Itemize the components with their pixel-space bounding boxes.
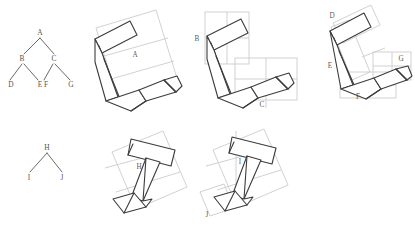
tree-edge-h-i <box>30 153 47 172</box>
panel-a: A <box>95 10 182 111</box>
tree-edge-b-e <box>24 64 38 80</box>
panel-bc-label-b: B <box>195 35 200 43</box>
figure-canvas: A B C D E F G H I J <box>0 0 415 228</box>
panel-defg: D E F G <box>328 5 412 101</box>
tree-node-f: F <box>44 80 48 89</box>
tree-node-e: E <box>38 80 43 89</box>
panel-h-label-h: H <box>136 163 141 171</box>
panel-bc-shape <box>207 19 294 108</box>
panel-defg-label-f: F <box>356 93 360 101</box>
figure-svg: A B C D E F G H I J <box>0 0 415 228</box>
tree-edge-c-g <box>55 64 70 80</box>
panel-h: H <box>105 131 187 213</box>
tree-hij <box>30 153 62 172</box>
tree-node-a: A <box>37 28 43 37</box>
panel-ij-label-j: J <box>206 211 209 219</box>
panel-a-shape <box>95 21 182 111</box>
tree-node-j: J <box>61 173 64 182</box>
panel-bc-label-c: C <box>260 101 265 109</box>
tree-edge-b-d <box>10 64 22 80</box>
tree-edge-a-b <box>24 38 40 54</box>
panel-ij-label-i: I <box>239 158 242 166</box>
panel-defg-label-g: G <box>398 55 403 63</box>
panel-bc: B C <box>195 12 297 109</box>
tree-node-i: I <box>28 173 31 182</box>
panel-defg-label-d: D <box>329 12 334 20</box>
tree-node-h: H <box>44 143 50 152</box>
tree-edge-h-j <box>47 153 62 172</box>
panel-ij: I J <box>200 129 288 219</box>
tree-node-b: B <box>20 54 25 63</box>
tree-edge-a-c <box>40 38 54 54</box>
tree-node-g: G <box>68 80 74 89</box>
panel-defg-label-e: E <box>328 62 333 70</box>
tree-node-d: D <box>8 80 14 89</box>
tree-node-c: C <box>52 54 57 63</box>
tree-edge-c-f <box>44 64 53 80</box>
panel-a-label-a: A <box>132 51 138 59</box>
